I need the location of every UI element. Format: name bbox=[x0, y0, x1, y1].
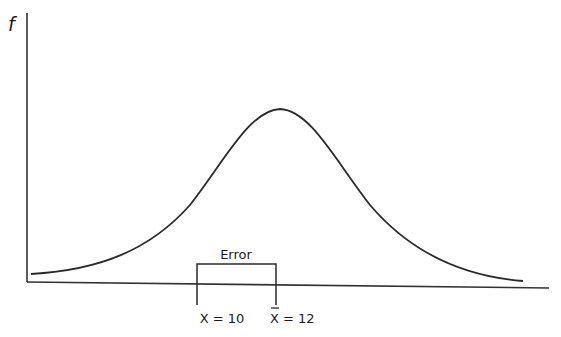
x-value-label: X = 10 bbox=[200, 311, 245, 326]
mean-value-label: X = 12 bbox=[270, 311, 315, 326]
error-label: Error bbox=[220, 247, 252, 262]
x-axis bbox=[27, 282, 549, 288]
y-axis-label: f bbox=[8, 13, 18, 35]
bell-curve bbox=[31, 109, 523, 281]
normal-distribution-diagram: f Error X = 10 X = 12 bbox=[0, 0, 561, 337]
